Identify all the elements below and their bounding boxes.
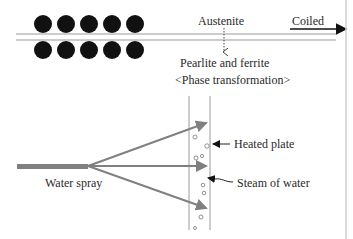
diagram-canvas [0, 0, 353, 239]
label-water-spray: Water spray [45, 176, 102, 190]
top-rolls [34, 15, 144, 33]
label-phase-transformation: <Phase transformation> [175, 73, 290, 87]
label-pearlite-ferrite: Pearlite and ferrite [180, 56, 269, 70]
steam-bubbles [193, 135, 209, 230]
spray-nozzle [17, 164, 88, 169]
label-austenite: Austenite [198, 14, 244, 28]
label-coiled: Coiled [292, 14, 324, 28]
steam-pointer-icon [208, 178, 233, 182]
label-steam-of-water: Steam of water [237, 176, 310, 190]
spray-jet-upper [88, 123, 206, 166]
spray-jet-lower [88, 166, 206, 208]
label-heated-plate: Heated plate [234, 137, 294, 151]
bottom-rolls [34, 41, 144, 59]
